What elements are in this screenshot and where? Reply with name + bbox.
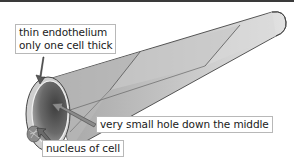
capillary-diagram: thin endothelium only one cell thick ver… (0, 0, 294, 160)
label-lumen: very small hole down the middle (96, 116, 273, 133)
label-nucleus-text: nucleus of cell (46, 142, 120, 155)
label-endothelium: thin endothelium only one cell thick (15, 24, 116, 54)
label-lumen-text: very small hole down the middle (100, 118, 269, 131)
label-endothelium-line2: only one cell thick (19, 39, 112, 52)
label-endothelium-line1: thin endothelium (19, 26, 112, 39)
label-nucleus: nucleus of cell (42, 140, 124, 157)
